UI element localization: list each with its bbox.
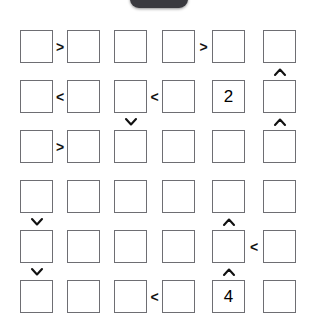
- v-inequality-c1-r4: [30, 216, 44, 228]
- grid-cell-r3-c5[interactable]: [212, 130, 245, 163]
- grid-cell-r2-c6[interactable]: [263, 80, 296, 113]
- v-inequality-c6-r2: [273, 116, 287, 128]
- grid-cell-r6-c3[interactable]: [114, 280, 147, 313]
- v-inequality-c5-r4: [222, 216, 236, 228]
- grid-cell-r3-c2[interactable]: [67, 130, 100, 163]
- grid-cell-r5-c6[interactable]: [263, 230, 296, 263]
- grid-cell-r2-c4[interactable]: [162, 80, 195, 113]
- inequality-puzzle-grid: 24>><<><<: [0, 0, 317, 325]
- v-inequality-c1-r5: [30, 266, 44, 278]
- grid-cell-r5-c2[interactable]: [67, 230, 100, 263]
- grid-cell-r4-c3[interactable]: [114, 180, 147, 213]
- v-inequality-c6-r1: [273, 66, 287, 78]
- h-inequality-r1-c1: >: [54, 40, 67, 54]
- h-inequality-r3-c1: >: [54, 140, 67, 154]
- h-inequality-r5-c5: <: [248, 240, 261, 254]
- grid-cell-r5-c4[interactable]: [162, 230, 195, 263]
- grid-cell-r1-c1[interactable]: [20, 30, 53, 63]
- grid-cell-r4-c4[interactable]: [162, 180, 195, 213]
- grid-cell-r6-c4[interactable]: [162, 280, 195, 313]
- h-inequality-r6-c3: <: [148, 290, 161, 304]
- grid-cell-r1-c4[interactable]: [162, 30, 195, 63]
- grid-cell-r1-c5[interactable]: [212, 30, 245, 63]
- grid-cell-r2-c3[interactable]: [114, 80, 147, 113]
- grid-cell-r2-c1[interactable]: [20, 80, 53, 113]
- grid-cell-r4-c1[interactable]: [20, 180, 53, 213]
- grid-cell-r3-c1[interactable]: [20, 130, 53, 163]
- grid-cell-r1-c2[interactable]: [67, 30, 100, 63]
- grid-cell-r5-c1[interactable]: [20, 230, 53, 263]
- grid-cell-r1-c3[interactable]: [114, 30, 147, 63]
- h-inequality-r1-c4: >: [197, 40, 210, 54]
- grid-cell-r6-c6[interactable]: [263, 280, 296, 313]
- h-inequality-r2-c1: <: [54, 90, 67, 104]
- grid-cell-r5-c5[interactable]: [212, 230, 245, 263]
- grid-cell-r3-c6[interactable]: [263, 130, 296, 163]
- grid-cell-r5-c3[interactable]: [114, 230, 147, 263]
- grid-cell-r4-c2[interactable]: [67, 180, 100, 213]
- grid-cell-r1-c6[interactable]: [263, 30, 296, 63]
- h-inequality-r2-c3: <: [148, 90, 161, 104]
- grid-cell-r3-c3[interactable]: [114, 130, 147, 163]
- grid-cell-r6-c2[interactable]: [67, 280, 100, 313]
- grid-cell-r6-c5[interactable]: 4: [212, 280, 245, 313]
- v-inequality-c3-r2: [124, 116, 138, 128]
- grid-cell-r4-c5[interactable]: [212, 180, 245, 213]
- grid-cell-r2-c2[interactable]: [67, 80, 100, 113]
- grid-cell-r6-c1[interactable]: [20, 280, 53, 313]
- grid-cell-r4-c6[interactable]: [263, 180, 296, 213]
- grid-cell-r2-c5[interactable]: 2: [212, 80, 245, 113]
- grid-cell-r3-c4[interactable]: [162, 130, 195, 163]
- v-inequality-c5-r5: [222, 266, 236, 278]
